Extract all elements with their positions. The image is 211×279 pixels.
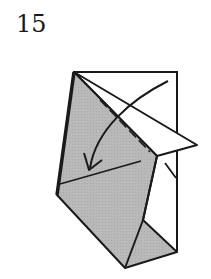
origami-diagram — [0, 0, 211, 279]
